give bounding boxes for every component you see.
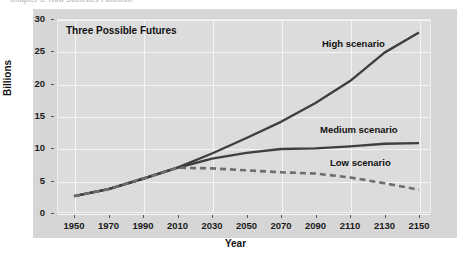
y-axis-tick-label: 30 <box>23 14 45 24</box>
gridline-vertical <box>75 20 76 212</box>
x-axis-tick-label: 2150 <box>399 221 439 231</box>
y-axis-tick-mark <box>51 213 54 214</box>
x-axis-tick-mark <box>316 215 317 218</box>
y-axis-tick-label: 10 <box>23 143 45 153</box>
x-axis-tick-mark <box>385 215 386 218</box>
x-axis-tick-mark <box>178 215 179 218</box>
x-axis-title: Year <box>0 238 471 249</box>
x-axis-tick-mark <box>247 215 248 218</box>
series-label-high: High scenario <box>322 38 385 49</box>
running-head: Chapter 3: How Societies Function <box>10 0 132 3</box>
y-axis-tick-mark <box>51 19 54 20</box>
series-label-medium: Medium scenario <box>320 124 398 135</box>
y-axis-tick-label: 25 <box>23 46 45 56</box>
x-axis-tick-mark <box>212 215 213 218</box>
y-axis-tick-label: 15 <box>23 111 45 121</box>
y-axis-tick-mark <box>51 181 54 182</box>
gridline-horizontal <box>58 117 430 118</box>
x-axis-tick-mark <box>109 215 110 218</box>
gridline-horizontal <box>58 149 430 150</box>
gridline-horizontal <box>58 20 430 21</box>
x-axis-tick-mark <box>350 215 351 218</box>
x-axis-tick-mark <box>74 215 75 218</box>
series-label-low: Low scenario <box>330 157 391 168</box>
gridline-horizontal <box>58 52 430 53</box>
y-axis-tick-mark <box>51 51 54 52</box>
y-axis-tick-label: 5 <box>23 176 45 186</box>
y-axis-tick-mark <box>51 84 54 85</box>
y-axis-tick-mark <box>51 148 54 149</box>
gridline-vertical <box>144 20 145 212</box>
y-axis-tick-label: 0 <box>23 208 45 218</box>
gridline-vertical <box>213 20 214 212</box>
x-axis-tick-mark <box>143 215 144 218</box>
gridline-horizontal <box>58 214 430 215</box>
gridline-vertical <box>282 20 283 212</box>
gridline-vertical <box>420 20 421 212</box>
y-axis-tick-label: 20 <box>23 79 45 89</box>
gridline-horizontal <box>58 85 430 86</box>
y-axis-title: Billions <box>2 60 13 96</box>
y-axis-tick-mark <box>51 116 54 117</box>
x-axis-tick-mark <box>419 215 420 218</box>
gridline-horizontal <box>58 182 430 183</box>
chart-title: Three Possible Futures <box>66 25 177 36</box>
x-axis-tick-mark <box>281 215 282 218</box>
